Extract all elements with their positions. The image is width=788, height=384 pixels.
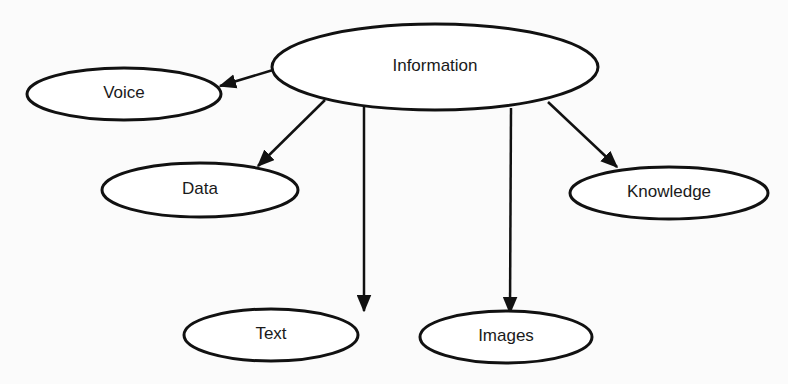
- node-information: Information: [272, 24, 598, 110]
- diagram-canvas: Information Voice Data Knowledge Text Im…: [0, 0, 788, 384]
- node-text: Text: [184, 309, 358, 361]
- node-knowledge: Knowledge: [570, 167, 768, 219]
- node-voice: Voice: [27, 68, 221, 120]
- node-information-label: Information: [392, 56, 477, 75]
- nodes: Information Voice Data Knowledge Text Im…: [27, 24, 768, 363]
- edge-information-knowledge: [548, 102, 617, 167]
- edge-information-data: [258, 100, 325, 166]
- node-data: Data: [102, 163, 298, 217]
- node-knowledge-label: Knowledge: [627, 182, 711, 201]
- edge-information-voice: [220, 70, 273, 86]
- node-text-label: Text: [255, 324, 286, 343]
- edge-information-images: [510, 108, 511, 313]
- node-images: Images: [420, 311, 592, 363]
- node-images-label: Images: [478, 326, 534, 345]
- node-voice-label: Voice: [103, 83, 145, 102]
- concept-map: Information Voice Data Knowledge Text Im…: [0, 0, 788, 384]
- node-data-label: Data: [182, 179, 218, 198]
